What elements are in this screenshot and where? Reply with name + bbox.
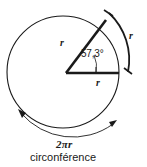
- diagram-canvas: [0, 0, 147, 167]
- radius-slant-line: [66, 20, 106, 73]
- circumference-formula-label: 2πr: [56, 139, 73, 150]
- radius-slant-label: r: [60, 38, 64, 48]
- angle-value-label: 57,3°: [81, 49, 103, 59]
- arc-length-outer-arc: [109, 13, 129, 72]
- circumference-caption: circonférence: [30, 152, 96, 163]
- arc-cap-start: [104, 10, 113, 16]
- circumference-arc: [21, 113, 113, 137]
- arc-length-label: r: [129, 31, 133, 41]
- radius-horizontal-label: r: [96, 78, 100, 88]
- radian-circle-diagram: r r r 57,3° 2πr circonférence: [0, 0, 147, 167]
